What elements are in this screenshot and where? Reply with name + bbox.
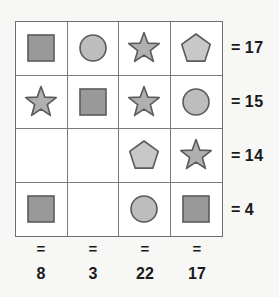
grid-cell-r4c4[interactable] [171,183,223,237]
col-sum-value: 3 [89,264,98,284]
row-sum-value: 4 [245,201,254,219]
grid-cell-r4c1[interactable] [16,183,68,237]
equals-sign: = [89,240,98,258]
equals-sign: = [231,147,241,165]
grid-cell-r3c1[interactable] [16,129,68,183]
square-shape [23,191,59,227]
grid-cell-r2c3[interactable] [119,76,171,130]
square-shape [75,84,111,120]
equals-sign: = [37,240,46,258]
shape-sum-puzzle: = 17 = 15 = 14 = 4 = 8 = 3 = 22 = 17 [0,0,279,297]
col-sum-1: = 8 [15,240,67,292]
circle-shape [178,84,214,120]
star-shape [23,84,59,120]
star-shape [126,84,162,120]
grid-cell-r1c3[interactable] [119,22,171,76]
pentagon-shape [178,30,214,66]
col-sum-3: = 22 [119,240,171,292]
square-shape [178,191,214,227]
col-sum-value: 17 [188,264,206,284]
row-sum-4: = 4 [231,183,279,237]
circle-shape [126,191,162,227]
grid-cell-r4c3[interactable] [119,183,171,237]
star-shape [126,30,162,66]
row-sum-value: 14 [245,147,264,165]
grid-cell-r3c3[interactable] [119,129,171,183]
grid-cell-r2c2[interactable] [68,76,120,130]
equals-sign: = [193,240,202,258]
grid-cell-r1c1[interactable] [16,22,68,76]
equals-sign: = [231,93,241,111]
grid-cell-r3c4[interactable] [171,129,223,183]
col-sum-2: = 3 [67,240,119,292]
col-sum-value: 8 [37,264,46,284]
row-sum-value: 17 [245,39,264,57]
row-sum-1: = 17 [231,21,279,75]
equals-sign: = [141,240,150,258]
grid-cell-r3c2[interactable] [68,129,120,183]
circle-shape [75,30,111,66]
puzzle-grid [15,21,223,237]
col-sum-value: 22 [136,264,154,284]
grid-cell-r1c4[interactable] [171,22,223,76]
row-sum-value: 15 [245,93,264,111]
grid-cell-r1c2[interactable] [68,22,120,76]
grid-cell-r4c2[interactable] [68,183,120,237]
square-shape [23,30,59,66]
equals-sign: = [231,201,241,219]
row-sum-3: = 14 [231,129,279,183]
pentagon-shape [126,137,162,173]
col-sum-4: = 17 [171,240,223,292]
equals-sign: = [231,39,241,57]
row-sum-2: = 15 [231,75,279,129]
grid-cell-r2c1[interactable] [16,76,68,130]
grid-cell-r2c4[interactable] [171,76,223,130]
star-shape [178,137,214,173]
